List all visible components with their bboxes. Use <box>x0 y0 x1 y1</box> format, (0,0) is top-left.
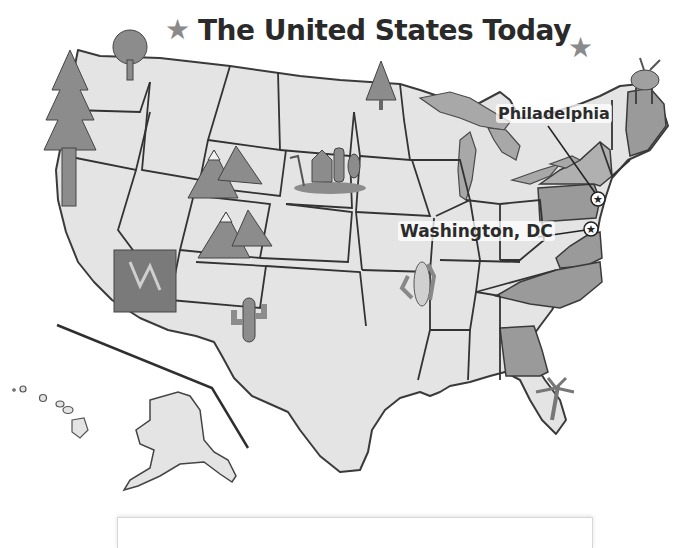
canyon-icon <box>114 250 176 312</box>
star-icon: ★ <box>568 34 593 62</box>
pennsylvania <box>538 184 600 222</box>
svg-text:★: ★ <box>586 223 596 236</box>
philadelphia-label: Philadelphia <box>496 104 612 123</box>
hawaii <box>13 386 88 438</box>
washington-dc-label: Washington, DC <box>398 221 555 241</box>
caption-box <box>117 517 593 548</box>
svg-text:★: ★ <box>593 193 603 206</box>
alaska <box>124 392 236 490</box>
georgia <box>500 326 548 376</box>
star-icon: ★ <box>165 16 190 44</box>
maine-ne <box>626 88 666 156</box>
map-title: The United States Today <box>198 14 571 47</box>
